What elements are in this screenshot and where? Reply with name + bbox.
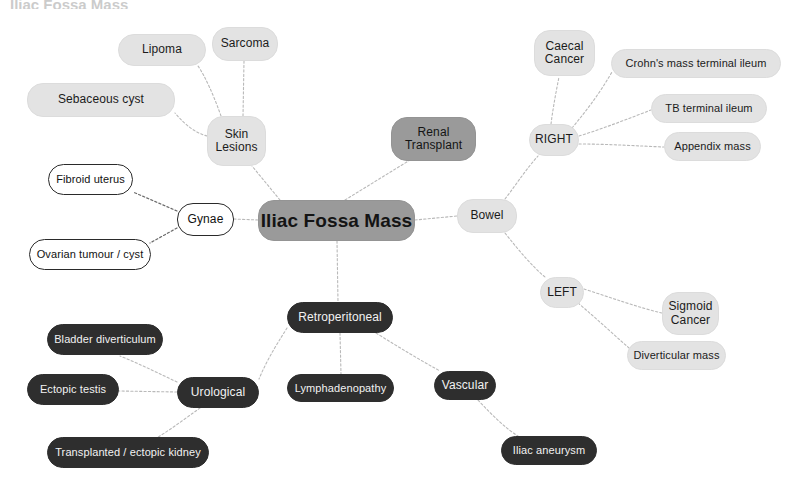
node-urological[interactable]: Urological	[177, 377, 259, 408]
edge-skin-to-sarcoma	[243, 61, 244, 116]
node-label: Caecal Cancer	[545, 40, 584, 67]
node-left[interactable]: LEFT	[540, 277, 584, 308]
node-ovarian[interactable]: Ovarian tumour / cyst	[29, 239, 151, 270]
edge-right-to-caecal	[551, 77, 559, 124]
edge-urological-to-transplanted	[155, 408, 200, 439]
edge-gynae-to-ovarian	[150, 228, 177, 243]
edge-urological-to-ectopictestis	[119, 391, 177, 392]
node-label: Crohn's mass terminal ileum	[625, 57, 766, 69]
edge-center-to-gynae	[234, 219, 258, 220]
node-label: Sarcoma	[221, 37, 270, 50]
edge-skin-to-sebaceous	[175, 113, 207, 136]
node-renal[interactable]: Renal Transplant	[391, 117, 476, 161]
node-retro[interactable]: Retroperitoneal	[287, 302, 393, 333]
node-label: Gynae	[188, 213, 224, 226]
node-label: Ectopic testis	[40, 383, 106, 395]
node-label: Urological	[191, 386, 245, 399]
node-label: Lymphadenopathy	[295, 382, 387, 394]
node-vascular[interactable]: Vascular	[434, 371, 496, 400]
node-sigmoid[interactable]: Sigmoid Cancer	[662, 292, 719, 335]
cropped-header-text: Iliac Fossa Mass	[10, 0, 250, 9]
node-sebaceous[interactable]: Sebaceous cyst	[27, 83, 175, 117]
edge-right-to-appendix	[579, 144, 664, 147]
node-diverticular[interactable]: Diverticular mass	[627, 341, 726, 370]
edge-center-to-bowel	[415, 216, 457, 220]
node-label: Bowel	[470, 209, 503, 222]
node-fibroid[interactable]: Fibroid uterus	[48, 164, 133, 195]
node-label: Appendix mass	[674, 140, 751, 152]
node-ectopictestis[interactable]: Ectopic testis	[27, 374, 119, 405]
edge-right-to-crohns	[572, 72, 612, 128]
edge-gynae-to-fibroid	[133, 192, 177, 211]
edge-vascular-to-iliac	[478, 400, 518, 436]
node-lipoma[interactable]: Lipoma	[118, 34, 206, 66]
node-label: Transplanted / ectopic kidney	[55, 446, 201, 458]
edge-center-to-retro	[337, 241, 338, 302]
node-caecal[interactable]: Caecal Cancer	[534, 30, 595, 76]
node-label: Iliac Fossa Mass	[261, 210, 413, 231]
node-right[interactable]: RIGHT	[529, 124, 579, 156]
node-label: Renal Transplant	[405, 126, 462, 153]
node-gynae[interactable]: Gynae	[177, 203, 234, 236]
node-label: Lipoma	[142, 43, 182, 56]
node-tb[interactable]: TB terminal ileum	[651, 94, 767, 123]
mindmap-canvas: Iliac Fossa Mass Iliac Fossa MassLipomaS…	[0, 0, 796, 490]
node-skin[interactable]: Skin Lesions	[207, 116, 266, 166]
node-appendix[interactable]: Appendix mass	[664, 132, 761, 161]
edge-left-to-sigmoid	[584, 289, 662, 313]
node-label: Fibroid uterus	[56, 173, 125, 185]
node-label: Vascular	[442, 379, 489, 392]
edge-skin-to-lipoma	[198, 66, 221, 116]
edge-left-to-diverticular	[578, 303, 629, 348]
node-label: Iliac aneurysm	[513, 444, 585, 456]
node-label: Diverticular mass	[633, 349, 719, 361]
node-crohns[interactable]: Crohn's mass terminal ileum	[611, 49, 781, 78]
node-label: Bladder diverticulum	[54, 333, 156, 345]
node-bowel[interactable]: Bowel	[457, 199, 517, 233]
node-label: LEFT	[547, 286, 577, 299]
node-bladder[interactable]: Bladder diverticulum	[47, 324, 163, 355]
edge-center-to-renal	[345, 160, 410, 200]
node-label: Retroperitoneal	[298, 311, 382, 324]
node-iliac[interactable]: Iliac aneurysm	[501, 436, 597, 465]
edge-retro-to-urological	[259, 328, 287, 379]
node-label: Sigmoid Cancer	[668, 300, 712, 327]
node-label: Sebaceous cyst	[58, 93, 144, 106]
edge-urological-to-bladder	[120, 356, 177, 382]
edge-bowel-to-right	[505, 156, 538, 199]
edge-retro-to-vascular	[376, 333, 440, 371]
node-label: Ovarian tumour / cyst	[37, 248, 144, 260]
edge-center-to-skin	[252, 166, 280, 200]
edge-retro-to-lymph	[340, 333, 341, 374]
node-label: RIGHT	[535, 133, 573, 146]
node-label: Skin Lesions	[215, 128, 257, 155]
node-center[interactable]: Iliac Fossa Mass	[258, 200, 415, 241]
edge-right-to-tb	[579, 110, 651, 136]
edge-bowel-to-left	[505, 233, 545, 277]
node-transplanted[interactable]: Transplanted / ectopic kidney	[47, 437, 209, 468]
node-sarcoma[interactable]: Sarcoma	[212, 27, 278, 61]
node-lymph[interactable]: Lymphadenopathy	[287, 374, 394, 402]
node-label: TB terminal ileum	[665, 102, 752, 114]
